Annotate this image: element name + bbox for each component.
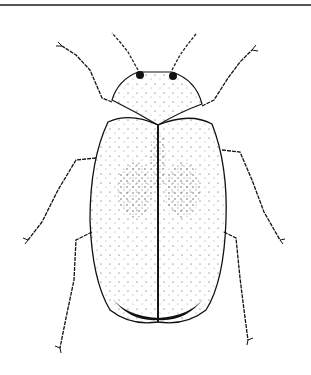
pronotum bbox=[112, 72, 202, 125]
antennae bbox=[112, 33, 196, 70]
beetle-illustration bbox=[0, 0, 311, 375]
illustration-frame bbox=[0, 0, 311, 375]
elytra-left bbox=[90, 118, 158, 323]
elytra-right bbox=[158, 118, 226, 323]
